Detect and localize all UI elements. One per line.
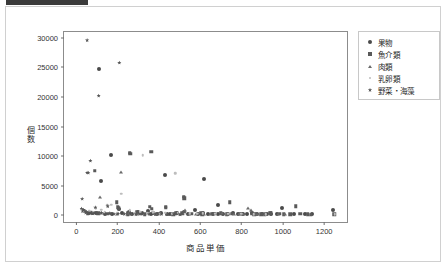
y-tick: 0 [54, 211, 64, 220]
data-point [93, 169, 97, 173]
data-point [288, 213, 292, 217]
y-tick: 15000 [37, 122, 64, 131]
data-point [164, 206, 168, 210]
legend-label: 果物 [378, 37, 393, 48]
data-point [183, 208, 187, 211]
x-tick: 200 [111, 222, 124, 236]
x-tick-label: 0 [74, 225, 78, 236]
data-point [216, 203, 220, 207]
window-title-bar [6, 0, 88, 5]
y-tick-label: 5000 [41, 181, 61, 190]
y-tick-label: 10000 [37, 152, 61, 161]
data-point [117, 60, 122, 65]
data-point [99, 179, 103, 183]
y-tick: 20000 [37, 92, 64, 101]
scatter-figure: 個数 商品単価 050001000015000200002500030000 0… [6, 7, 442, 263]
x-tick: 1200 [316, 222, 333, 236]
data-point [97, 67, 101, 71]
legend-item[interactable]: 魚介類 [362, 48, 436, 60]
data-point [331, 208, 335, 212]
data-point [220, 212, 224, 215]
y-tick-label: 20000 [37, 92, 61, 101]
x-tick: 1000 [275, 222, 292, 236]
x-tick-label: 1000 [275, 225, 292, 236]
data-point [85, 38, 90, 43]
y-tick: 5000 [41, 181, 64, 190]
data-point [98, 195, 102, 198]
data-point [232, 213, 236, 216]
chart-card: 個数 商品単価 050001000015000200002500030000 0… [5, 6, 441, 262]
y-tick-label: 15000 [37, 122, 61, 131]
legend-item[interactable]: 乳卵類 [362, 72, 436, 84]
data-point [110, 204, 112, 206]
data-point [182, 196, 186, 200]
legend-marker-star-icon [362, 88, 378, 93]
legend-marker-square-icon [362, 52, 378, 56]
data-point [276, 213, 280, 216]
legend-item[interactable]: 肉類 [362, 60, 436, 72]
legend-item[interactable]: 野菜・海藻 [362, 84, 436, 96]
data-point [174, 172, 176, 174]
data-point [294, 205, 298, 209]
data-point [228, 200, 232, 204]
y-tick-label: 30000 [37, 33, 61, 42]
data-point [119, 171, 123, 174]
x-tick-label: 200 [111, 225, 124, 236]
data-point [208, 213, 212, 216]
legend-label: 魚介類 [378, 49, 400, 60]
x-tick-label: 400 [153, 225, 166, 236]
x-tick: 400 [153, 222, 166, 236]
legend-item[interactable]: 果物 [362, 36, 436, 48]
data-point [149, 150, 153, 154]
data-point [120, 192, 122, 194]
screenshot-root: 個数 商品単価 050001000015000200002500030000 0… [0, 0, 447, 269]
data-point [117, 207, 121, 211]
data-point [309, 213, 313, 217]
plot-area: 050001000015000200002500030000 020040060… [63, 31, 348, 223]
data-point [269, 212, 273, 216]
data-point [109, 153, 113, 157]
data-point [88, 158, 93, 163]
data-point [115, 201, 119, 205]
legend-label: 野菜・海藻 [378, 85, 415, 96]
data-points-layer [64, 32, 347, 222]
x-tick: 600 [194, 222, 207, 236]
data-point [128, 152, 132, 156]
chart-legend: 果物魚介類肉類乳卵類野菜・海藻 [358, 31, 440, 100]
data-point [306, 212, 310, 216]
y-tick: 25000 [37, 63, 64, 72]
y-tick-label: 0 [54, 211, 61, 220]
x-axis-label: 商品単価 [63, 241, 348, 253]
x-tick: 0 [74, 222, 78, 236]
data-point [280, 206, 284, 210]
data-point [142, 154, 144, 156]
legend-marker-circle-icon [362, 40, 378, 44]
legend-marker-dot-icon [362, 77, 378, 79]
data-point [249, 208, 253, 211]
legend-marker-triangle-icon [362, 65, 378, 68]
x-tick-label: 1200 [316, 225, 333, 236]
data-point [96, 94, 101, 99]
y-tick: 10000 [37, 152, 64, 161]
data-point [292, 212, 296, 216]
legend-label: 乳卵類 [378, 73, 400, 84]
data-point [283, 213, 287, 216]
data-point [202, 177, 206, 181]
data-point [163, 173, 167, 177]
x-tick-label: 600 [194, 225, 207, 236]
y-axis-label: 個数 [24, 126, 35, 144]
data-point [256, 213, 260, 216]
y-tick: 30000 [37, 33, 64, 42]
x-tick: 800 [235, 222, 248, 236]
legend-label: 肉類 [378, 61, 393, 72]
data-point [80, 197, 85, 202]
x-tick-label: 800 [235, 225, 248, 236]
data-point [299, 212, 303, 216]
y-tick-label: 25000 [37, 63, 61, 72]
